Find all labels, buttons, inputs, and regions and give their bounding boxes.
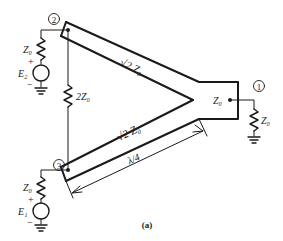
load-impedance-label: Z₀ — [261, 115, 271, 126]
upper-line-impedance-label: √2 Z₀ — [118, 56, 145, 77]
source2-minus: − — [27, 79, 33, 90]
load-resistor — [250, 109, 258, 131]
port1-number: 1 — [257, 82, 262, 92]
lower-line-impedance-label: √2 Z₀ — [115, 122, 142, 143]
source3-circle — [33, 203, 49, 219]
isolation-resistor — [64, 85, 72, 107]
length-arrowhead-right — [193, 125, 203, 132]
upper-arm-top — [61, 22, 66, 36]
source2-name-label: E₂ — [17, 68, 28, 79]
source3-impedance-label: Z₀ — [23, 182, 33, 193]
lower-arm-end — [61, 167, 66, 181]
quarter-wavelength-label: λ/4 — [125, 151, 142, 167]
port1-node-dot — [228, 98, 232, 102]
source2-circle — [33, 65, 49, 81]
source2-plus: + — [28, 56, 34, 67]
port2-number: 2 — [52, 15, 57, 25]
junction-impedance-label: Z₀ — [213, 95, 223, 106]
length-tick-left — [66, 181, 73, 198]
port3-node-dot — [66, 168, 70, 172]
source2-impedance-label: Z₀ — [23, 44, 33, 55]
figure-caption: (a) — [142, 220, 153, 230]
source3-resistor — [37, 177, 45, 199]
source2-resistor — [37, 38, 45, 60]
port2-node-dot — [66, 28, 70, 32]
circuit-schematic: 2 3 1 √2 Z₀ √2 Z₀ 2Z₀ Z₀ Z₀ Z₀ + E₂ − Z₀… — [0, 0, 283, 241]
length-tick-right — [199, 119, 207, 136]
wilkinson-divider-diagram: 2 3 1 √2 Z₀ √2 Z₀ 2Z₀ Z₀ Z₀ Z₀ + E₂ − Z₀… — [0, 0, 283, 241]
source3-name-label: E₁ — [17, 206, 28, 217]
source3-minus: − — [27, 217, 33, 228]
port1-wire — [230, 100, 254, 109]
source3-plus: + — [28, 194, 34, 205]
port3-number: 3 — [57, 161, 62, 171]
isolation-resistor-label: 2Z₀ — [76, 91, 91, 102]
